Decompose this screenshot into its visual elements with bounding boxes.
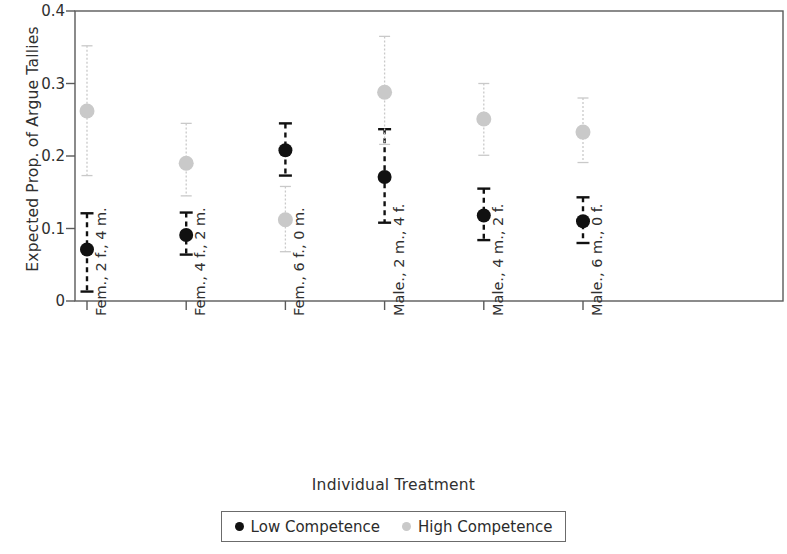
legend-marker-high-competence-icon bbox=[402, 522, 411, 531]
data-point-marker bbox=[576, 125, 591, 140]
legend-item-low-competence: Low Competence bbox=[235, 518, 380, 536]
legend-label-high-competence: High Competence bbox=[418, 518, 552, 536]
data-point-marker bbox=[80, 104, 95, 119]
data-point-marker bbox=[80, 243, 94, 257]
x-tick-label: Fem., 4 f., 2 m. bbox=[192, 207, 208, 316]
legend-label-low-competence: Low Competence bbox=[251, 518, 380, 536]
data-point-marker bbox=[179, 156, 194, 171]
data-point-marker bbox=[378, 170, 392, 184]
y-tick-label: 0.1 bbox=[17, 220, 65, 238]
data-point-group bbox=[278, 123, 292, 175]
data-point-marker bbox=[476, 112, 491, 127]
data-point-group bbox=[576, 98, 591, 163]
chart-figure: Expected Prop. of Argue Tallies Individu… bbox=[0, 0, 787, 554]
data-point-marker bbox=[278, 143, 292, 157]
legend-item-high-competence: High Competence bbox=[402, 518, 552, 536]
legend-marker-low-competence-icon bbox=[235, 522, 244, 531]
data-point-group bbox=[378, 129, 392, 223]
x-tick-label: Male., 6 m., 0 f. bbox=[589, 204, 605, 316]
y-tick-label: 0.3 bbox=[17, 75, 65, 93]
data-point-group bbox=[80, 46, 95, 176]
data-point-group bbox=[477, 189, 491, 240]
data-point-marker bbox=[576, 214, 590, 228]
data-point-marker bbox=[377, 85, 392, 100]
x-tick-label: Fem., 2 f., 4 m. bbox=[93, 207, 109, 316]
x-tick-label: Fem., 6 f., 0 m. bbox=[291, 207, 307, 316]
data-point-group bbox=[576, 197, 590, 243]
y-tick-label: 0.2 bbox=[17, 147, 65, 165]
y-tick-label: 0.4 bbox=[17, 2, 65, 20]
chart-legend: Low Competence High Competence bbox=[221, 511, 566, 542]
y-tick-label: 0 bbox=[17, 292, 65, 310]
data-point-marker bbox=[477, 208, 491, 222]
plot-frame bbox=[75, 11, 783, 301]
data-point-group bbox=[80, 213, 94, 291]
x-tick-label: Male., 2 m., 4 f. bbox=[391, 204, 407, 316]
x-tick-label: Male., 4 m., 2 f. bbox=[490, 204, 506, 316]
data-point-group bbox=[476, 84, 491, 156]
data-point-group bbox=[179, 123, 194, 196]
